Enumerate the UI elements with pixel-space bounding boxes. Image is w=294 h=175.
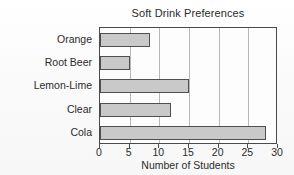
x-tick-label-15: 15 xyxy=(182,146,194,158)
y-tick-label-root-beer: Root Beer xyxy=(45,50,92,73)
x-tick-label-20: 20 xyxy=(212,146,224,158)
x-tick-label-25: 25 xyxy=(241,146,253,158)
y-tick-label-clear: Clear xyxy=(67,97,92,120)
bar-series xyxy=(100,28,276,143)
bar-orange xyxy=(100,33,150,47)
bar-clear xyxy=(100,103,171,117)
bar-row xyxy=(100,75,189,98)
chart-title: Soft Drink Preferences xyxy=(99,7,277,19)
y-tick-label-orange: Orange xyxy=(57,27,92,50)
bar-row xyxy=(100,122,266,145)
y-axis-tick-labels: ColaClearLemon-LimeRoot BeerOrange xyxy=(0,27,96,144)
x-tick-label-10: 10 xyxy=(152,146,164,158)
x-tick-label-5: 5 xyxy=(126,146,132,158)
chart-figure: Soft Drink Preferences Drink Type ColaCl… xyxy=(0,0,294,175)
bar-row xyxy=(100,51,130,74)
plot-area xyxy=(99,27,277,144)
x-tick-label-0: 0 xyxy=(96,146,102,158)
bar-lemon-lime xyxy=(100,79,189,93)
x-axis-title: Number of Students xyxy=(99,159,277,171)
y-tick-label-cola: Cola xyxy=(70,121,92,144)
bar-cola xyxy=(100,126,266,140)
bar-root-beer xyxy=(100,56,130,70)
x-tick-label-30: 30 xyxy=(271,146,283,158)
bar-row xyxy=(100,98,171,121)
y-tick-label-lemon-lime: Lemon-Lime xyxy=(34,74,92,97)
x-axis-tick-labels: 051015202530 xyxy=(99,146,277,159)
bar-row xyxy=(100,28,150,51)
